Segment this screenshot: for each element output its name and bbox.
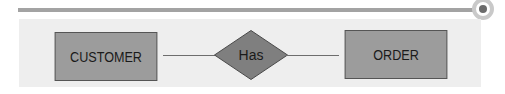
- entity-customer: CUSTOMER: [55, 32, 158, 81]
- relationship-has: Has: [214, 30, 288, 80]
- entity-customer-label: CUSTOMER: [70, 49, 142, 65]
- connector-has-order: [286, 55, 339, 56]
- entity-order-label: ORDER: [373, 47, 419, 63]
- entity-order: ORDER: [345, 30, 448, 79]
- bullet-marker-icon: [472, 0, 494, 20]
- header-rule: [18, 8, 476, 12]
- connector-customer-has: [163, 55, 216, 56]
- bullet-marker-dot: [479, 5, 487, 13]
- relationship-has-label: Has: [239, 47, 264, 63]
